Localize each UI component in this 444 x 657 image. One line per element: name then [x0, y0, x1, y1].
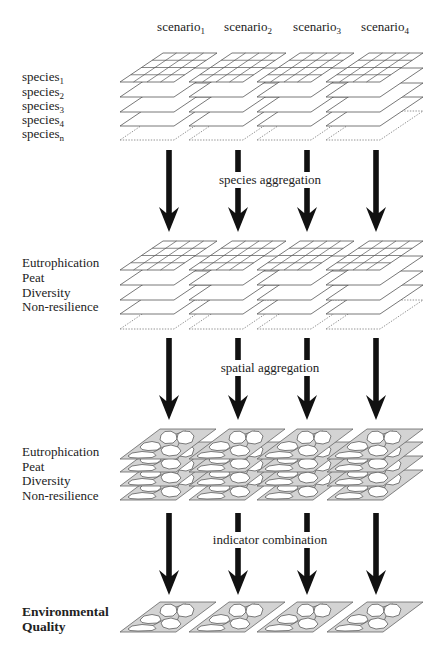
- row-label-non-resilience: Non-resilience: [22, 488, 99, 503]
- scenario-1-header: scenario1: [157, 19, 205, 36]
- result-label-line2: Quality: [22, 619, 66, 634]
- down-arrow-icon: [159, 338, 179, 420]
- scenario-headers: scenario1 scenario2 scenario3 scenario4: [157, 19, 409, 36]
- row-label-eutrophication: Eutrophication: [22, 444, 100, 459]
- down-arrow-icon: [159, 150, 179, 232]
- step3-arrows: indicator combination: [159, 513, 386, 595]
- down-arrow-icon: [297, 150, 317, 232]
- stage1-stack-scenario-4: [326, 53, 423, 140]
- aggregation-flow-diagram: scenario1 scenario2 scenario3 scenario4 …: [0, 0, 444, 657]
- row-label-diversity: Diversity: [22, 473, 71, 488]
- result-maps: [120, 602, 423, 632]
- down-arrow-icon: [228, 338, 248, 420]
- down-arrow-icon: [228, 150, 248, 232]
- step2-arrows: spatial aggregation: [159, 338, 386, 420]
- scenario-4-header: scenario4: [361, 19, 409, 36]
- row-label-peat: Peat: [22, 270, 45, 285]
- result-label: Environmental Quality: [22, 604, 109, 634]
- row-label-diversity: Diversity: [22, 285, 71, 300]
- row-label-eutrophication: Eutrophication: [22, 255, 100, 270]
- stage1-layer-stacks: [120, 53, 423, 140]
- down-arrow-icon: [366, 150, 386, 232]
- down-arrow-icon: [159, 513, 179, 595]
- scenario-2-header: scenario2: [224, 19, 272, 36]
- stage2-row-labels: Eutrophication Peat Diversity Non-resili…: [22, 255, 100, 314]
- row-label-peat: Peat: [22, 459, 45, 474]
- stage3-map-stacks: [120, 429, 423, 500]
- stage3-stack-scenario-4: [327, 429, 423, 500]
- stage2-layer-stacks: [120, 241, 423, 329]
- stage1-row-labels: species1 species2 species3 species4 spec…: [22, 69, 65, 143]
- down-arrow-icon: [297, 338, 317, 420]
- row-label-non-resilience: Non-resilience: [22, 299, 99, 314]
- down-arrow-icon: [366, 338, 386, 420]
- step1-label: species aggregation: [219, 172, 322, 187]
- stage3-row-labels: Eutrophication Peat Diversity Non-resili…: [22, 444, 100, 503]
- down-arrow-icon: [366, 513, 386, 595]
- down-arrow-icon: [297, 513, 317, 595]
- step3-label: indicator combination: [213, 532, 328, 547]
- row-label-species-n: speciesn: [22, 126, 65, 143]
- scenario-3-header: scenario3: [293, 19, 341, 36]
- result-label-line1: Environmental: [22, 604, 109, 619]
- step2-label: spatial aggregation: [221, 360, 320, 375]
- stage2-stack-scenario-4: [326, 241, 423, 329]
- down-arrow-icon: [228, 513, 248, 595]
- step1-arrows: species aggregation: [159, 150, 386, 232]
